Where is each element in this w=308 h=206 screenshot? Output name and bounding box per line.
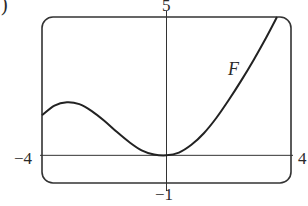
x-max-label: 4 <box>298 150 307 167</box>
curve-label-F: F <box>228 60 239 78</box>
function-curve <box>42 17 277 155</box>
graph-figure: ) 5 −1 −4 4 F <box>0 0 308 206</box>
part-marker: ) <box>1 0 8 14</box>
y-max-label: 5 <box>162 0 171 14</box>
plot-area <box>0 0 308 206</box>
x-min-label: −4 <box>14 150 32 167</box>
y-min-label: −1 <box>155 186 173 203</box>
axes <box>40 11 293 191</box>
curve-F <box>42 17 277 155</box>
